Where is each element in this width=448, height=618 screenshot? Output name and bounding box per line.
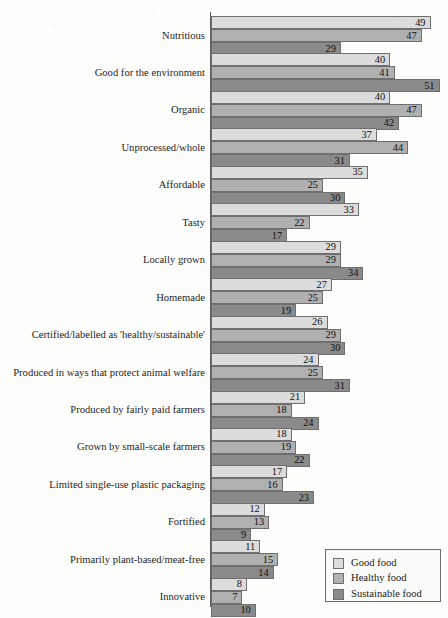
bar-value-label: 25 <box>308 180 318 190</box>
bar-row: 33 <box>211 203 359 216</box>
bar-row: 13 <box>211 516 269 529</box>
bar-healthy-food: 7 <box>211 591 242 604</box>
bar-value-label: 17 <box>272 231 282 241</box>
bar-healthy-food: 15 <box>211 553 278 566</box>
category-label: Locally grown <box>0 254 205 266</box>
bar-value-label: 22 <box>294 218 304 228</box>
category-group: Good for the environment404151 <box>0 53 448 92</box>
category-group: Unprocessed/whole374431 <box>0 128 448 167</box>
bar-healthy-food: 16 <box>211 478 283 491</box>
bar-value-label: 14 <box>258 568 268 578</box>
bar-value-label: 44 <box>393 143 403 153</box>
bar-value-label: 41 <box>379 68 389 78</box>
bar-value-label: 30 <box>330 343 340 353</box>
category-group: Nutritious494729 <box>0 16 448 55</box>
bar-value-label: 21 <box>290 392 300 402</box>
bar-good-food: 18 <box>211 428 292 441</box>
bar-row: 18 <box>211 428 292 441</box>
category-group: Fortified12139 <box>0 503 448 542</box>
bar-healthy-food: 13 <box>211 516 269 529</box>
bar-row: 11 <box>211 540 260 553</box>
bar-value-label: 18 <box>276 429 286 439</box>
bar-good-food: 21 <box>211 391 305 404</box>
bar-value-label: 29 <box>326 43 336 53</box>
bar-value-label: 40 <box>375 92 385 102</box>
category-group: Grown by small-scale farmers181922 <box>0 428 448 467</box>
bar-good-food: 49 <box>211 16 431 29</box>
bar-row: 47 <box>211 104 422 117</box>
bar-value-label: 33 <box>343 205 353 215</box>
bar-row: 29 <box>211 241 341 254</box>
legend-label: Healthy food <box>351 573 407 584</box>
bar-good-food: 12 <box>211 503 265 516</box>
bar-healthy-food: 29 <box>211 254 341 267</box>
category-group: Homemade272519 <box>0 278 448 317</box>
legend-item: Healthy food <box>333 571 431 586</box>
bar-row: 8 <box>211 578 247 591</box>
bar-good-food: 40 <box>211 91 390 104</box>
bar-row: 18 <box>211 404 292 417</box>
bar-row: 35 <box>211 166 368 179</box>
bar-value-label: 42 <box>384 118 394 128</box>
bar-value-label: 15 <box>263 555 273 565</box>
legend-label: Sustainable food <box>351 589 422 600</box>
bar-value-label: 31 <box>335 156 345 166</box>
category-label: Unprocessed/whole <box>0 142 205 154</box>
bar-good-food: 8 <box>211 578 247 591</box>
bar-healthy-food: 41 <box>211 66 395 79</box>
category-label: Primarily plant-based/meat-free <box>0 554 205 566</box>
bar-value-label: 7 <box>232 592 237 602</box>
bar-value-label: 11 <box>245 542 255 552</box>
bar-row: 22 <box>211 216 310 229</box>
bar-value-label: 34 <box>348 268 358 278</box>
bar-value-label: 30 <box>330 193 340 203</box>
bar-row: 10 <box>211 604 256 617</box>
bar-value-label: 40 <box>375 55 385 65</box>
legend-swatch-icon <box>333 589 344 600</box>
bar-healthy-food: 19 <box>211 441 296 454</box>
bar-value-label: 29 <box>326 255 336 265</box>
bar-row: 25 <box>211 179 323 192</box>
bar-value-label: 19 <box>281 442 291 452</box>
category-label: Affordable <box>0 179 205 191</box>
bar-row: 12 <box>211 503 265 516</box>
bar-value-label: 19 <box>281 305 291 315</box>
bar-value-label: 29 <box>326 242 336 252</box>
category-label: Tasty <box>0 217 205 229</box>
bar-value-label: 22 <box>294 455 304 465</box>
bar-value-label: 51 <box>424 81 434 91</box>
bar-row: 17 <box>211 465 287 478</box>
bar-value-label: 31 <box>335 380 345 390</box>
bar-value-label: 25 <box>308 367 318 377</box>
category-label: Organic <box>0 104 205 116</box>
bar-good-food: 11 <box>211 540 260 553</box>
bar-value-label: 8 <box>237 579 242 589</box>
legend-label: Good food <box>351 558 397 569</box>
category-label: Limited single-use plastic packaging <box>0 479 205 491</box>
bar-value-label: 17 <box>272 467 282 477</box>
bar-value-label: 9 <box>241 530 246 540</box>
bar-value-label: 26 <box>312 317 322 327</box>
category-group: Produced by fairly paid farmers211824 <box>0 391 448 430</box>
bar-value-label: 13 <box>254 517 264 527</box>
category-label: Innovative <box>0 591 205 603</box>
category-label: Produced in ways that protect animal wel… <box>0 367 205 379</box>
category-label: Nutritious <box>0 30 205 42</box>
bar-healthy-food: 18 <box>211 404 292 417</box>
bar-value-label: 23 <box>299 493 309 503</box>
category-group: Tasty332217 <box>0 203 448 242</box>
category-group: Limited single-use plastic packaging1716… <box>0 465 448 504</box>
plot-area: Nutritious494729Good for the environment… <box>0 0 448 618</box>
bar-value-label: 47 <box>406 30 416 40</box>
legend-item: Sustainable food <box>333 587 431 602</box>
legend-swatch-icon <box>333 573 344 584</box>
bar-value-label: 24 <box>303 354 313 364</box>
bar-row: 25 <box>211 366 323 379</box>
category-label: Certified/labelled as 'healthy/sustainab… <box>0 329 205 341</box>
bar-value-label: 24 <box>303 418 313 428</box>
bar-row: 25 <box>211 291 323 304</box>
category-group: Produced in ways that protect animal wel… <box>0 353 448 392</box>
bar-row: 26 <box>211 316 328 329</box>
bar-good-food: 24 <box>211 353 319 366</box>
bar-healthy-food: 22 <box>211 216 310 229</box>
